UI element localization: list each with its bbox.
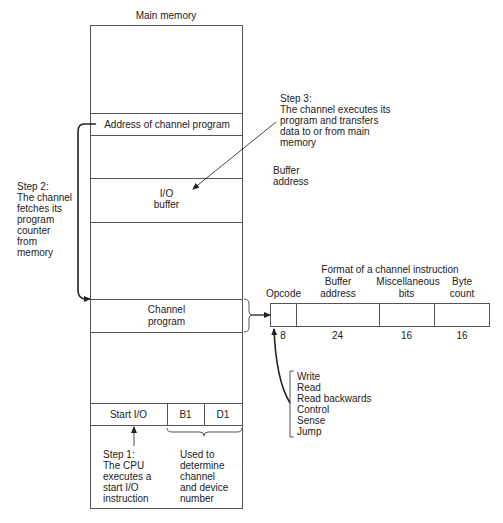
b1-d1-bracket bbox=[167, 428, 242, 436]
opcode-list-bracket bbox=[290, 371, 294, 437]
step3-arrow bbox=[193, 122, 276, 189]
opcode-arrow bbox=[274, 329, 290, 403]
channel-program-bracket bbox=[244, 299, 253, 332]
step2-arrow bbox=[78, 124, 96, 299]
connector-overlay bbox=[0, 0, 503, 523]
